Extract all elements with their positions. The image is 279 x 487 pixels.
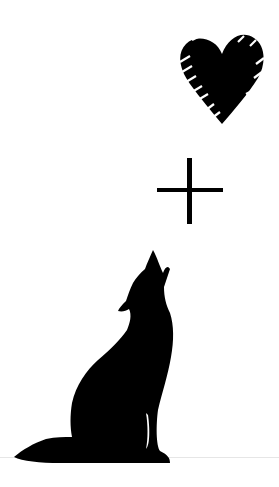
- wolf-icon: [0, 245, 279, 465]
- plus-icon: [156, 155, 224, 227]
- heart-icon: [178, 32, 266, 126]
